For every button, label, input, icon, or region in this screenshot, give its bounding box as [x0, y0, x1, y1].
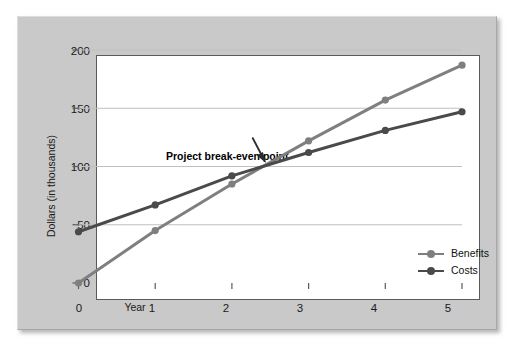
legend-marker-benefits-icon [418, 249, 444, 259]
legend-marker-costs-icon [418, 266, 444, 276]
y-tick-label-150: 150 [56, 104, 90, 116]
chart-panel: 200 150 100 50 0 0 1 2 3 4 5 Dollars (in… [17, 16, 497, 330]
y-tick-label-0: 0 [56, 278, 90, 290]
legend-item-costs[interactable]: Costs [418, 262, 489, 279]
x-axis-title: Year [124, 301, 145, 313]
y-tick-label-200: 200 [56, 46, 90, 58]
chart-legend: Benefits Costs [418, 245, 489, 279]
y-axis-ticks: 200 150 100 50 0 [52, 17, 90, 331]
figure-container: 200 150 100 50 0 0 1 2 3 4 5 Dollars (in… [0, 0, 515, 346]
legend-label-costs: Costs [451, 265, 478, 276]
y-tick-label-100: 100 [56, 162, 90, 174]
y-tick-label-50: 50 [56, 220, 90, 232]
x-axis-title-wrap: Year [0, 301, 515, 313]
y-axis-title: Dollars (in thousands) [45, 126, 57, 246]
legend-label-benefits: Benefits [451, 248, 489, 259]
break-even-annotation: Project break-even point [166, 150, 289, 162]
legend-item-benefits[interactable]: Benefits [418, 245, 489, 262]
